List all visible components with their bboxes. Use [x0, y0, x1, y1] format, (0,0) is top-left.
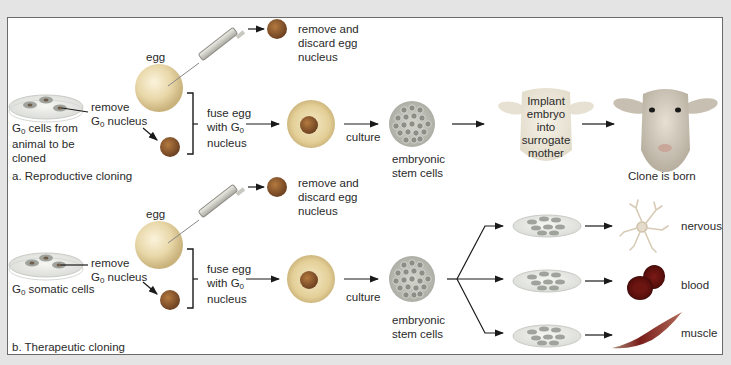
- implant-label: Implant embryo into surrogate mother: [514, 95, 578, 160]
- culture-label: culture: [346, 131, 381, 144]
- culture-dish-icon: [513, 325, 581, 347]
- petri-dish-icon: [9, 253, 83, 280]
- remove-nucleus-label: remove G0 nucleus: [91, 256, 147, 286]
- culture-dish-icon: [513, 215, 581, 237]
- muscle-cell-icon: [612, 312, 682, 348]
- stem-cell-cluster-icon: [389, 256, 435, 302]
- culture-dish-icon: [513, 270, 581, 292]
- outcome-label-blood: blood: [681, 279, 709, 292]
- source-cells-label-b: G0 somatic cells: [12, 283, 94, 297]
- source-cells-label-a: G0 cells from animal to be cloned: [12, 121, 78, 165]
- egg-label: egg: [146, 208, 165, 221]
- syringe-icon: [168, 27, 245, 86]
- cloned-sheep-icon: [612, 89, 719, 172]
- syringe-icon: [168, 184, 245, 243]
- g0-nucleus-icon: [160, 290, 180, 310]
- section-title-therapeutic: b. Therapeutic cloning: [12, 341, 125, 354]
- petri-dish-icon: [9, 95, 83, 122]
- bracket: [187, 249, 193, 308]
- stem-cells-label: embryonic stem cells: [392, 313, 445, 341]
- outcome-label-nervous: nervous: [681, 220, 722, 233]
- stem-cell-cluster-icon: [389, 101, 435, 147]
- outcome-label-muscle: muscle: [681, 327, 717, 340]
- g0-nucleus-icon: [160, 137, 180, 157]
- branch-arrows: [447, 226, 503, 333]
- fuse-label: fuse egg with G0 nucleus: [207, 106, 251, 150]
- culture-label: culture: [346, 291, 381, 304]
- discard-nucleus-label: remove and discard egg nucleus: [298, 22, 359, 64]
- section-title-reproductive: a. Reproductive cloning: [12, 170, 132, 183]
- blood-cell-icon: [627, 262, 668, 300]
- discard-nucleus-label: remove and discard egg nucleus: [298, 176, 359, 218]
- stem-cells-label: embryonic stem cells: [392, 152, 445, 180]
- fuse-label: fuse egg with G0 nucleus: [207, 262, 251, 306]
- bracket: [187, 93, 193, 154]
- nerve-cell-icon: [620, 200, 668, 252]
- egg-label: egg: [146, 51, 165, 64]
- remove-nucleus-label: remove G0 nucleus: [91, 100, 147, 130]
- clone-born-label: Clone is born: [628, 170, 696, 183]
